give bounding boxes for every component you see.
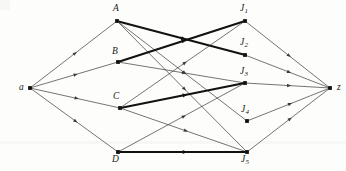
arrowhead-icon bbox=[181, 115, 186, 118]
arrowhead-icon bbox=[287, 84, 291, 87]
edge-J4-to-z bbox=[248, 89, 328, 121]
network-graph bbox=[0, 0, 346, 171]
node-label-z: z bbox=[337, 83, 341, 93]
edge-J3-to-z bbox=[247, 83, 329, 88]
edge-J2-to-z bbox=[246, 56, 328, 88]
node-label-subscript: 5 bbox=[245, 158, 249, 166]
node-label-subscript: 2 bbox=[244, 41, 248, 49]
node-label-subscript: 3 bbox=[244, 70, 248, 78]
node-dot-A[interactable] bbox=[115, 19, 119, 23]
node-dot-J3[interactable] bbox=[243, 81, 247, 85]
arrowhead-icon bbox=[288, 103, 293, 106]
node-label-text: a bbox=[19, 82, 24, 92]
node-label-J3: J3 bbox=[240, 67, 248, 78]
node-label-text: A bbox=[113, 3, 119, 13]
edge-J5-to-z bbox=[248, 89, 328, 151]
node-dot-J1[interactable] bbox=[243, 19, 247, 23]
arrowhead-icon bbox=[182, 62, 186, 66]
node-label-J4: J4 bbox=[241, 105, 249, 116]
node-label-text: D bbox=[112, 154, 119, 164]
node-label-J5: J5 bbox=[241, 155, 249, 166]
edge-a-to-C bbox=[32, 88, 119, 107]
edge-a-to-D bbox=[31, 89, 116, 151]
node-label-D: D bbox=[112, 155, 119, 165]
node-label-text: C bbox=[113, 91, 119, 101]
node-label-A: A bbox=[113, 4, 119, 14]
node-dot-a[interactable] bbox=[28, 86, 32, 90]
node-label-text: z bbox=[337, 82, 341, 92]
node-dot-B[interactable] bbox=[116, 60, 120, 64]
node-label-B: B bbox=[112, 47, 118, 57]
node-label-C: C bbox=[113, 92, 119, 102]
edge-J1-to-z bbox=[246, 22, 328, 87]
node-dot-J2[interactable] bbox=[243, 53, 247, 57]
node-label-J1: J1 bbox=[240, 4, 248, 15]
arrowhead-icon bbox=[73, 119, 77, 123]
node-dot-J4[interactable] bbox=[245, 119, 249, 123]
node-dot-J5[interactable] bbox=[245, 150, 249, 154]
figure-canvas: aABCDJ1J2J3J4J5z bbox=[0, 0, 346, 171]
edge-C-to-J5 bbox=[122, 109, 246, 152]
node-dot-C[interactable] bbox=[118, 106, 122, 110]
arrowhead-icon bbox=[73, 73, 78, 76]
arrowhead-icon bbox=[183, 129, 188, 132]
arrowhead-icon bbox=[74, 96, 78, 99]
arrowhead-icon bbox=[183, 150, 188, 154]
node-dot-z[interactable] bbox=[328, 86, 332, 90]
node-label-a: a bbox=[19, 83, 24, 93]
arrowhead-icon bbox=[287, 117, 291, 121]
node-label-subscript: 1 bbox=[244, 7, 248, 15]
edge-D-to-J5 bbox=[120, 150, 246, 154]
node-label-subscript: 4 bbox=[245, 108, 249, 116]
node-label-text: B bbox=[112, 46, 118, 56]
edge-A-to-J2 bbox=[119, 21, 244, 54]
edge-a-to-A bbox=[31, 22, 115, 87]
arrowhead-icon bbox=[181, 40, 186, 44]
edge-a-to-B bbox=[32, 62, 117, 87]
node-label-J2: J2 bbox=[240, 38, 248, 49]
edge-D-to-J3 bbox=[119, 84, 243, 151]
arrowhead-icon bbox=[287, 70, 292, 73]
arrowhead-icon bbox=[72, 52, 76, 56]
